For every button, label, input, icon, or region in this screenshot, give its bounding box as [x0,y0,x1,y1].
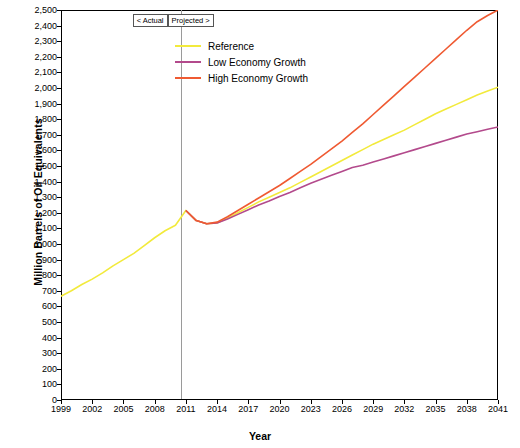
x-tick-mark [311,400,312,404]
x-tick-label: 2002 [82,404,102,414]
x-tick-label: 1999 [51,404,71,414]
legend-item: Reference [175,38,308,54]
plot-area: 01002003004005006007008009001,0001,1001,… [61,10,498,400]
x-tick-mark [342,400,343,404]
x-tick-mark [123,400,124,404]
x-tick-label: 2005 [113,404,133,414]
x-tick-mark [404,400,405,404]
x-tick-mark [186,400,187,404]
legend-swatch [175,61,201,63]
x-tick-mark [280,400,281,404]
chart-root: Million Barrels of Oil Equivalents Year … [0,0,520,448]
x-tick-mark [498,400,499,404]
legend-swatch [175,45,201,47]
x-tick-label: 2029 [363,404,383,414]
legend-label: Reference [208,41,254,52]
series-line [61,87,498,296]
x-axis-title: Year [0,430,520,442]
x-tick-label: 2020 [269,404,289,414]
x-tick-mark [373,400,374,404]
legend-label: High Economy Growth [208,73,308,84]
x-tick-mark [436,400,437,404]
x-tick-label: 2008 [145,404,165,414]
x-tick-mark [467,400,468,404]
x-tick-label: 2032 [394,404,414,414]
x-tick-mark [155,400,156,404]
x-tick-label: 2023 [301,404,321,414]
x-tick-mark [217,400,218,404]
legend-swatch [175,77,201,79]
x-tick-label: 2041 [488,404,508,414]
x-tick-label: 2011 [176,404,195,414]
x-tick-label: 2035 [426,404,446,414]
legend-item: Low Economy Growth [175,54,308,70]
legend-item: High Economy Growth [175,70,308,86]
x-tick-label: 2014 [207,404,227,414]
x-tick-mark [248,400,249,404]
x-tick-label: 2038 [457,404,477,414]
x-tick-mark [61,400,62,404]
x-tick-label: 2026 [332,404,352,414]
chart-legend: ReferenceLow Economy GrowthHigh Economy … [175,38,308,86]
x-tick-label: 2017 [238,404,258,414]
x-tick-mark [92,400,93,404]
legend-label: Low Economy Growth [208,57,306,68]
